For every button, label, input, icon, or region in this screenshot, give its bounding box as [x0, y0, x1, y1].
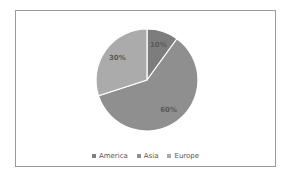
- legend-item-america: America: [92, 152, 128, 160]
- data-label-europe: 30%: [109, 54, 126, 62]
- legend-item-europe: Europe: [167, 152, 199, 160]
- data-label-asia: 60%: [160, 106, 177, 114]
- pie-chart: [16, 11, 277, 168]
- chart-frame: 10%60%30% America Asia Europe: [15, 10, 276, 167]
- data-label-america: 10%: [150, 41, 167, 49]
- legend-swatch-asia: [137, 154, 141, 158]
- legend-swatch-america: [92, 154, 96, 158]
- legend: America Asia Europe: [16, 152, 275, 160]
- legend-label-asia: Asia: [144, 152, 159, 160]
- legend-item-asia: Asia: [137, 152, 159, 160]
- legend-label-america: America: [99, 152, 128, 160]
- legend-label-europe: Europe: [174, 152, 199, 160]
- legend-swatch-europe: [167, 154, 171, 158]
